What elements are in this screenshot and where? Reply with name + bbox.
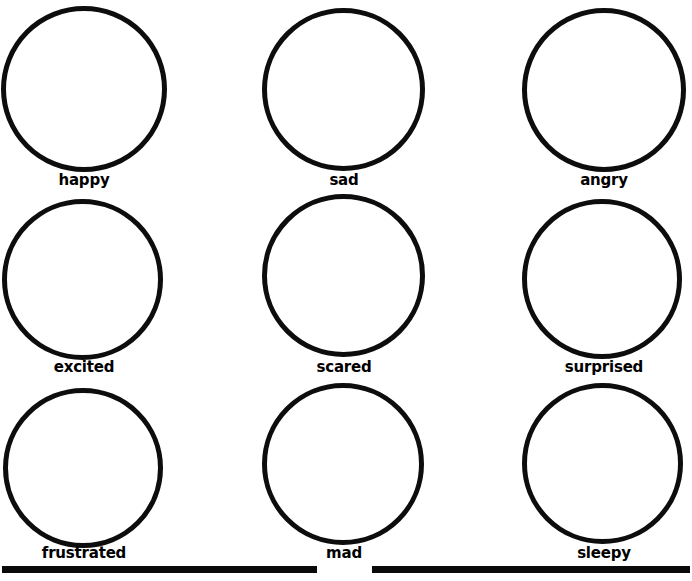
face-label-frustrated: frustrated	[0, 545, 168, 562]
face-circle-excited[interactable]	[2, 199, 163, 360]
face-label-happy: happy	[0, 172, 168, 189]
face-circle-happy[interactable]	[1, 6, 167, 172]
worksheet-page: happy sad angry excited scared surprised…	[0, 0, 692, 581]
face-label-mad: mad	[260, 545, 428, 562]
face-circle-scared[interactable]	[262, 194, 425, 357]
face-circle-surprised[interactable]	[522, 199, 682, 359]
face-circle-frustrated[interactable]	[3, 388, 163, 548]
face-circle-sleepy[interactable]	[522, 383, 683, 544]
footer-rule-right	[372, 566, 690, 573]
face-label-surprised: surprised	[520, 359, 688, 376]
footer-rule-left	[2, 566, 317, 573]
face-label-excited: excited	[0, 359, 168, 376]
face-circle-mad[interactable]	[262, 383, 424, 545]
face-circle-sad[interactable]	[262, 8, 425, 171]
face-label-sad: sad	[260, 172, 428, 189]
face-circle-angry[interactable]	[522, 8, 686, 172]
face-label-angry: angry	[520, 172, 688, 189]
face-label-sleepy: sleepy	[520, 545, 688, 562]
face-label-scared: scared	[260, 359, 428, 376]
